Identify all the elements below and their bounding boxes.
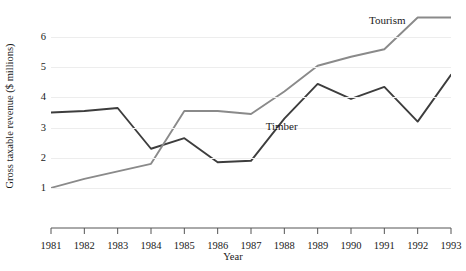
x-axis-tick-label: 1991 [367, 240, 401, 251]
series-label-tourism: Tourism [369, 14, 406, 26]
y-axis-tick-label: 1 [30, 183, 46, 193]
y-axis-tick-label: 5 [30, 62, 46, 72]
y-axis-tick-label: 2 [30, 153, 46, 163]
x-axis-tick-label: 1982 [67, 240, 101, 251]
x-axis-title: Year [0, 251, 466, 262]
series-line-timber [51, 75, 451, 162]
y-axis-tick-label: 3 [30, 123, 46, 133]
gridline [51, 67, 451, 68]
x-axis-tick-label: 1981 [34, 240, 68, 251]
y-axis-tick-label: 4 [30, 92, 46, 102]
x-axis-line [51, 228, 451, 234]
y-axis-tick-labels: 123456 [30, 10, 46, 200]
x-axis-tick-label: 1987 [234, 240, 268, 251]
x-axis-tick-label: 1984 [134, 240, 168, 251]
x-axis-tick-label: 1988 [267, 240, 301, 251]
gridline [51, 97, 451, 98]
series-label-timber: Timber [266, 120, 298, 132]
y-axis-tick-label: 6 [30, 32, 46, 42]
plot-area [51, 10, 451, 200]
x-axis-tick-label: 1983 [101, 240, 135, 251]
gridline [51, 158, 451, 159]
y-axis-title-text: Gross taxable revenue ($ millions) [4, 43, 16, 188]
series-lines [51, 10, 451, 200]
x-axis-tick-label: 1990 [334, 240, 368, 251]
x-axis-tick-label: 1986 [201, 240, 235, 251]
gridline [51, 188, 451, 189]
x-axis-tick-label: 1985 [167, 240, 201, 251]
line-chart: Gross taxable revenue ($ millions) 12345… [0, 0, 466, 271]
series-line-tourism [51, 18, 451, 188]
x-axis-tick-label: 1992 [401, 240, 435, 251]
gridline [51, 37, 451, 38]
x-axis-tick-label: 1989 [301, 240, 335, 251]
y-axis-title: Gross taxable revenue ($ millions) [2, 16, 18, 216]
x-axis-tick-label: 1993 [434, 240, 466, 251]
gridline [51, 128, 451, 129]
